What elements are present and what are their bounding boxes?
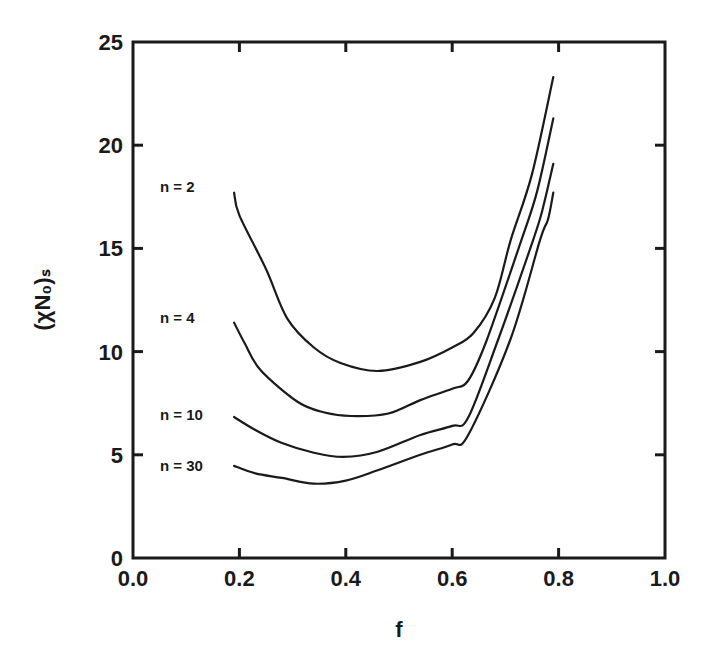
curves bbox=[234, 77, 553, 484]
series-label: n = 2 bbox=[160, 178, 195, 195]
chart: 0.00.20.40.60.81.00510152025 n = 2n = 4n… bbox=[0, 0, 716, 662]
y-tick-label: 25 bbox=[99, 30, 123, 55]
series-label: n = 4 bbox=[160, 309, 195, 326]
y-tick-label: 20 bbox=[99, 133, 123, 158]
y-tick-label: 0 bbox=[111, 546, 123, 571]
x-tick-label: 1.0 bbox=[650, 566, 681, 591]
y-tick-label: 5 bbox=[111, 443, 123, 468]
x-tick-label: 0.6 bbox=[437, 566, 468, 591]
series-label: n = 30 bbox=[160, 457, 203, 474]
series-curve bbox=[234, 77, 553, 371]
x-tick-label: 0.8 bbox=[543, 566, 574, 591]
x-tick-label: 0.2 bbox=[224, 566, 255, 591]
x-axis-label: f bbox=[395, 617, 403, 642]
y-tick-label: 10 bbox=[99, 340, 123, 365]
series-curve bbox=[234, 118, 553, 416]
series-label: n = 10 bbox=[160, 406, 203, 423]
plot-frame bbox=[133, 42, 665, 558]
y-axis-label: (χN₀)ₛ bbox=[30, 269, 55, 330]
series-curve bbox=[234, 193, 553, 484]
series-labels: n = 2n = 4n = 10n = 30 bbox=[160, 178, 203, 474]
x-tick-label: 0.4 bbox=[331, 566, 362, 591]
y-tick-label: 15 bbox=[99, 236, 123, 261]
